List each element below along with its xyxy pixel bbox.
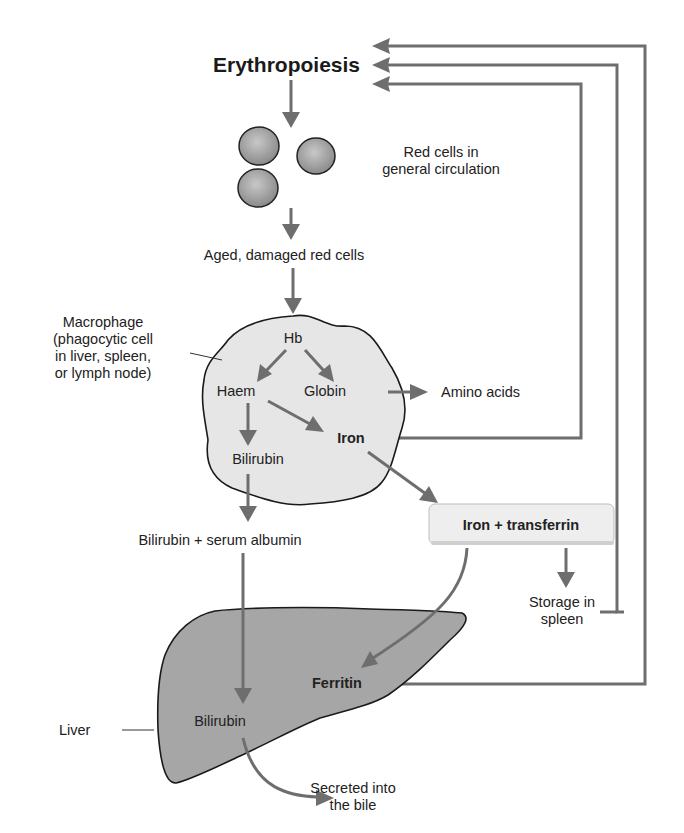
liver-shape: [158, 608, 466, 784]
secreted-label-1: Secreted into: [310, 780, 395, 796]
erythropoiesis-title: Erythropoiesis: [213, 53, 360, 76]
macrophage-cell: [203, 315, 405, 504]
globin-label: Globin: [304, 383, 346, 399]
amino-acids-label: Amino acids: [441, 384, 520, 400]
liver-label: Liver: [59, 722, 91, 738]
iron-transferrin-label: Iron + transferrin: [463, 517, 579, 533]
ferritin-label: Ferritin: [312, 675, 362, 691]
storage-label-2: spleen: [541, 611, 584, 627]
red-cells-label-1: Red cells in: [404, 144, 479, 160]
hb-label: Hb: [284, 330, 303, 346]
secreted-label-2: the bile: [330, 797, 377, 813]
iron-label: Iron: [337, 430, 364, 446]
arrow-to-macrophage: [284, 268, 302, 314]
storage-label-1: Storage in: [529, 594, 595, 610]
arrow-transferrin-to-storage: [557, 548, 575, 588]
aged-cells-label: Aged, damaged red cells: [204, 247, 364, 263]
macrophage-label-4: or lymph node): [55, 365, 152, 381]
macrophage-label-1: Macrophage: [63, 314, 144, 330]
bilirubin-liver-label: Bilirubin: [194, 713, 246, 729]
feedback-loop-ferritin: [362, 38, 645, 684]
bilirubin-macrophage-label: Bilirubin: [232, 451, 284, 467]
diagram-canvas: Erythropoiesis Red cells in general circ…: [0, 0, 684, 833]
macrophage-label-3: in liver, spleen,: [55, 348, 151, 364]
macrophage-label-2: (phagocytic cell: [53, 331, 153, 347]
arrow-to-red-cells: [282, 80, 300, 128]
red-cells-label-2: general circulation: [382, 161, 500, 177]
iron-transferrin-box: Iron + transferrin: [429, 504, 614, 545]
arrow-to-aged-cells: [282, 208, 300, 240]
red-cells-icon: [238, 127, 335, 207]
haem-label: Haem: [217, 383, 256, 399]
bilirubin-albumin-label: Bilirubin + serum albumin: [138, 532, 301, 548]
